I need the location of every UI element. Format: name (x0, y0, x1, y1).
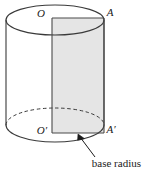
label-O-prime: O′ (37, 124, 48, 136)
label-O: O (37, 7, 45, 19)
cylinder-diagram: O A O′ A′ base radius (0, 0, 145, 171)
base-radius-annotation-label: base radius (92, 157, 141, 169)
label-A: A (106, 6, 114, 18)
cylinder-figure: O A O′ A′ base radius (0, 0, 145, 171)
label-A-prime: A′ (105, 123, 116, 135)
